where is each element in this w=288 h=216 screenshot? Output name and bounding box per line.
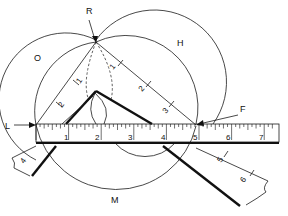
square-arm-right-thick (163, 146, 240, 206)
rule-ticks (36, 124, 272, 140)
construction-diagram: R O H L F M 1 2 3 4 5 6 7 1 2 4 1 2 3 5 … (0, 0, 288, 216)
arrow-F-shaft (199, 115, 238, 124)
rule-number-6: 6 (226, 133, 231, 142)
circle-O (0, 33, 96, 160)
line-R-F (96, 42, 196, 125)
square-arm-left-thick (32, 146, 56, 176)
right-arm-number-5: 5 (215, 155, 225, 164)
square-inner-edge (66, 91, 96, 124)
label-O: O (34, 53, 41, 63)
square-arm-right-thin (196, 148, 268, 181)
rule-number-7: 7 (259, 133, 264, 142)
arc-inner-right (96, 35, 198, 124)
lens-right (95, 93, 107, 124)
right-arm-number-1: 1 (108, 62, 118, 72)
square-arm-left-thin (12, 146, 36, 158)
left-arm-number-2: 2 (56, 100, 66, 109)
right-arm-number-2: 2 (137, 84, 147, 94)
square-inner-edge-2 (62, 96, 93, 124)
right-arm-tick-5 (224, 151, 228, 157)
circle-M (36, 125, 196, 190)
rule-number-1: 1 (64, 133, 69, 142)
square-arm-right-end (246, 181, 268, 205)
rule-number-2: 2 (95, 133, 100, 142)
rule-number-5: 5 (193, 133, 198, 142)
left-arm-number-4: 4 (18, 156, 28, 165)
label-H: H (177, 38, 184, 48)
label-M: M (111, 195, 119, 205)
left-arm-number-1: 1 (74, 76, 84, 85)
label-R: R (86, 6, 93, 16)
arrow-F-head (196, 120, 204, 126)
rule-number-3: 3 (128, 133, 133, 142)
dashed-curve-left (86, 42, 96, 98)
right-arm-number-6: 6 (238, 175, 248, 184)
label-F: F (240, 104, 246, 114)
line-R-L (36, 42, 96, 125)
rule-number-4: 4 (161, 133, 166, 142)
square-outer-edge (96, 91, 152, 124)
arrow-L-head (29, 122, 36, 128)
label-L: L (5, 121, 10, 131)
